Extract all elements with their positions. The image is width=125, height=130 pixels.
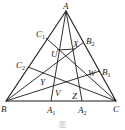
label-c: C — [113, 104, 120, 114]
label-x: X — [72, 39, 79, 49]
label-a2: A2 — [77, 105, 87, 116]
triangle-diagram: A B C A1 A2 B1 B2 C1 C2 U X W Y V Z 图 — [0, 0, 125, 130]
label-z: Z — [72, 91, 78, 101]
diagram-canvas: A B C A1 A2 B1 B2 C1 C2 U X W Y V Z — [0, 0, 125, 130]
label-u: U — [51, 49, 58, 59]
label-c2: C2 — [16, 60, 25, 71]
label-b: B — [1, 104, 7, 114]
figure-caption: 图 — [0, 119, 125, 129]
label-b2: B2 — [86, 36, 95, 47]
label-w: W — [88, 68, 97, 78]
triangle-abc — [6, 11, 116, 101]
label-a1: A1 — [46, 105, 56, 116]
label-a: A — [62, 1, 69, 11]
label-y: Y — [40, 77, 46, 87]
label-c1: C1 — [36, 29, 45, 40]
label-v: V — [55, 88, 62, 98]
cevian-b-b1 — [6, 71, 100, 101]
label-b1: B1 — [102, 67, 111, 78]
